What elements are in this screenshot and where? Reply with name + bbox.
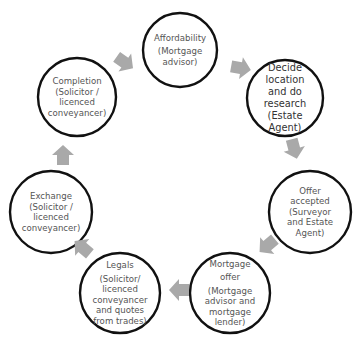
node-label-line: offer [220,272,240,283]
node-label-line: Decide [268,62,302,74]
node-label-line: and Estate [287,217,333,228]
node-label-line: (Solicitor / [55,87,99,98]
node-label-line: Affordability [154,33,206,44]
node-label-line: advisor and [205,296,255,307]
node-label-line: conveyancer) [22,223,81,234]
node-label-legals: Legals(Solicitor/licencedconveyancerand … [80,253,160,333]
node-label-line: Legals [106,260,134,271]
node-label-line: accepted [290,196,330,207]
node-label-line: (Estate [268,110,303,122]
node-label-affordability: Affordability(Mortgageadvisor) [143,13,217,87]
node-label-line: (Solicitor / [29,202,73,213]
node-label-line: (Solicitor/ [99,274,140,285]
node-label-line: and do [268,86,302,98]
arrow-legals-to-exchange [169,279,189,301]
node-label-line: research [264,98,306,110]
node-label-line: conveyancer) [48,108,107,119]
node-label-line: licenced [33,212,69,223]
node-label-line: from trades) [93,316,146,327]
node-label-line: Agent) [296,228,325,239]
node-label-line: licenced [59,97,95,108]
arrow-offer-accepted-to-mortgage-offer [281,136,307,161]
node-label-mortgage-offer: Mortgageoffer(Mortgageadvisor andmortgag… [190,253,270,333]
node-label-line: lender) [215,317,246,328]
node-label-completion: Completion(Solicitor /licencedconveyance… [38,58,116,136]
node-label-line: and quotes [96,305,144,316]
node-label-line: Exchange [30,191,72,202]
node-label-line: advisor) [163,57,198,68]
node-label-line: licenced [102,284,138,295]
node-label-offer-accepted: Offeraccepted(Surveyorand EstateAgent) [269,171,351,253]
node-label-line: Mortgage [209,259,250,270]
node-label-line: (Surveyor [289,207,331,218]
node-label-line: Offer [299,186,321,197]
node-label-exchange: Exchange(Solicitor /licencedconveyancer) [10,171,92,253]
node-label-line: (Mortgage [158,46,202,57]
node-label-line: (Mortgage [208,286,252,297]
arrow-completion-to-affordability [52,145,74,165]
node-label-line: Completion [52,76,101,87]
node-label-line: conveyancer [92,295,147,306]
node-label-line: location [266,74,305,86]
node-label-line: Agent) [269,122,302,134]
node-label-line: mortgage [209,307,251,318]
node-label-decide-location: Decidelocationand doresearch(EstateAgent… [247,60,323,136]
